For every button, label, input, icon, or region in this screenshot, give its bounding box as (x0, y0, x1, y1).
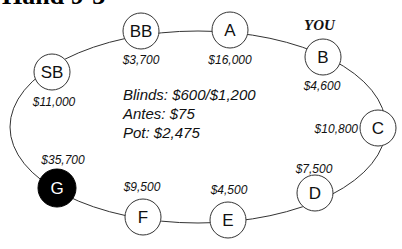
seat-d: D (297, 175, 333, 211)
seat-label-b: B (317, 48, 328, 67)
seat-c: C (360, 110, 396, 146)
stack-e: $4,500 (211, 183, 248, 197)
stack-sb: $11,000 (33, 95, 76, 109)
antes-text: Antes: $75 (123, 104, 256, 123)
seat-g-dealer: G (38, 169, 76, 207)
seat-label-f: F (138, 208, 148, 227)
seat-b: B (305, 39, 341, 75)
stack-bb: $3,700 (123, 53, 160, 67)
seat-e: E (210, 202, 246, 238)
seat-label-g: G (50, 179, 63, 198)
stack-c: $10,800 (315, 122, 358, 136)
seat-label-a: A (224, 21, 236, 40)
stack-d: $7,500 (296, 162, 333, 176)
hand-info: Blinds: $600/$1,200 Antes: $75 Pot: $2,4… (123, 85, 256, 142)
seat-label-c: C (372, 119, 384, 138)
stack-f: $9,500 (124, 180, 161, 194)
seat-f: F (125, 199, 161, 235)
hero-marker: YOU (304, 17, 335, 34)
stack-g: $35,700 (41, 153, 84, 167)
seat-label-e: E (222, 211, 233, 230)
seat-a: A (212, 12, 248, 48)
seat-label-d: D (309, 184, 321, 203)
stack-b: $4,600 (304, 79, 341, 93)
blinds-text: Blinds: $600/$1,200 (123, 85, 256, 104)
seat-label-sb: SB (41, 63, 64, 82)
seat-bb: BB (123, 13, 159, 49)
pot-text: Pot: $2,475 (123, 123, 256, 142)
stack-a: $16,000 (208, 53, 251, 67)
seat-label-bb: BB (130, 22, 153, 41)
seat-sb: SB (34, 54, 70, 90)
